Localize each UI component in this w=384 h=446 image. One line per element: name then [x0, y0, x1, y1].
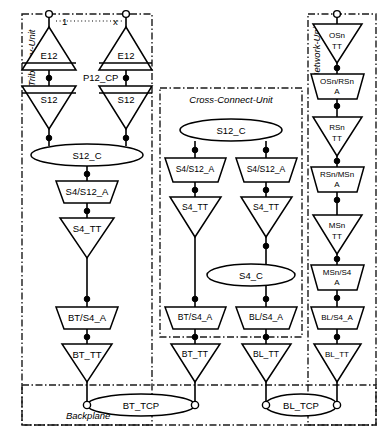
connection-point-label: BT_TCP [123, 400, 159, 411]
block-label: BT_TT [182, 349, 209, 359]
block-label-line2: TT [332, 232, 342, 241]
connection-point-s4c-ccu[interactable]: S4_C [207, 264, 295, 286]
access-point-network[interactable] [334, 11, 341, 18]
trib-main-chain: S4/S12_A S4_TT BT/S4_A BT_TT [56, 166, 118, 404]
termination-point-bl-left[interactable] [262, 401, 269, 408]
connection-point-bl-tcp[interactable]: BL_TCP [265, 394, 337, 416]
connection-point-p12cp-1[interactable] [46, 75, 52, 81]
block-bt-s4-a-trib[interactable]: BT/S4_A [56, 307, 118, 329]
connection-point-s4c-out[interactable] [263, 296, 269, 302]
block-s4-s12-a-trib[interactable]: S4/S12_A [56, 181, 118, 203]
connection-point-label: S12_C [216, 125, 245, 136]
block-rsn-tt[interactable]: RSn TT [313, 117, 362, 156]
block-s4-s12-a-ccu-right[interactable]: S4/S12_A [236, 158, 297, 182]
block-label: BL_TT [325, 350, 349, 359]
block-label: S4/S12_A [176, 164, 215, 174]
block-label: BL_TT [253, 349, 280, 359]
connection-point-bt-trib[interactable] [84, 334, 90, 340]
block-label: E12 [41, 50, 58, 61]
block-s4-s12-a-ccu-left[interactable]: S4/S12_A [165, 158, 226, 182]
block-label: BT_TT [72, 349, 101, 360]
block-bl-tt-nu[interactable]: BL_TT [314, 344, 361, 382]
block-label-line1: OSn [329, 31, 345, 40]
block-label-line2: A [334, 278, 340, 287]
block-bt-tt-ccu-left[interactable]: BT_TT [171, 344, 220, 382]
block-label: BL/S4_A [321, 313, 353, 322]
block-s4-tt-ccu-right[interactable]: S4_TT [241, 197, 292, 237]
connection-point-bt-tcp[interactable]: BT_TCP [87, 394, 195, 416]
connection-point-s12c-out-right[interactable] [263, 147, 269, 153]
block-e12-trib-x[interactable]: E12 [99, 27, 152, 70]
connection-point-rsn[interactable] [334, 103, 340, 109]
block-label-line2: TT [332, 42, 342, 51]
block-bl-s4-a-nu[interactable]: BL/S4_A [311, 307, 364, 329]
top-index-row: 1 x [56, 16, 124, 27]
connection-point-label: BL_TCP [283, 400, 319, 411]
connection-point-label: S4_C [239, 270, 263, 281]
block-label-line2: A [334, 180, 340, 189]
block-label-line1: MSn [329, 221, 345, 230]
block-label: BT/S4_A [68, 312, 107, 323]
block-s4-tt-ccu-left[interactable]: S4_TT [170, 197, 221, 237]
block-s4-tt-trib[interactable]: S4_TT [60, 218, 114, 258]
block-rsn-msn-a[interactable]: RSn/MSn A [311, 167, 364, 192]
block-label: S4_TT [73, 223, 102, 234]
termination-point-bt-right[interactable] [191, 401, 198, 408]
termination-point-bl-right[interactable] [333, 401, 340, 408]
connection-point-s4-ccu-left[interactable] [192, 187, 198, 193]
block-s12-trib-x[interactable]: S12 [99, 86, 152, 129]
connection-point-osn[interactable] [334, 65, 340, 71]
block-label: E12 [118, 50, 135, 61]
connection-point-s4c-trib[interactable] [84, 296, 90, 302]
block-label: S4/S12_A [66, 186, 109, 197]
connection-point-s12c-ccu[interactable]: S12_C [180, 119, 282, 141]
block-msn-s4-a[interactable]: MSn/S4 A [311, 265, 364, 290]
block-osn-rsn-a[interactable]: OSn/RSn A [311, 74, 364, 99]
connection-point-label: S12_C [72, 150, 101, 161]
access-point-trib-x[interactable] [123, 11, 130, 18]
termination-point-bt-left[interactable] [83, 401, 90, 408]
block-s12-trib-1[interactable]: S12 [22, 86, 76, 129]
block-label: S12 [41, 94, 58, 105]
connection-point-rsn-out[interactable] [334, 158, 340, 164]
unit-title-cross-connect: Cross-Connect-Unit [189, 94, 273, 105]
block-label-line2: A [334, 87, 340, 96]
block-label: S4/S12_A [247, 164, 286, 174]
index-label-last: x [113, 16, 118, 27]
connection-point-s4c-ccu-left[interactable] [192, 296, 198, 302]
block-label-line2: TT [332, 134, 342, 143]
network-architecture-diagram: Tributary-Unit Cross-Connect-Unit Networ… [0, 0, 384, 446]
connection-point-s4-ccu-right[interactable] [263, 187, 269, 193]
connection-point-s4-nu[interactable] [334, 295, 340, 301]
connection-point-s12c-tributary[interactable]: S12_C [31, 144, 143, 166]
block-label: BT/S4_A [178, 312, 213, 322]
block-label-line1: RSn [329, 123, 345, 132]
connection-point-s12c-out[interactable] [84, 171, 90, 177]
connection-point-bl-ccu-right[interactable] [263, 334, 269, 340]
block-label: S4_TT [182, 202, 209, 212]
svg-text:Cross-Connect-Unit: Cross-Connect-Unit [189, 94, 273, 105]
block-bt-tt-trib[interactable]: BT_TT [62, 344, 112, 382]
connection-point-p12cp-x[interactable] [123, 75, 129, 81]
block-bt-s4-a-ccu-left[interactable]: BT/S4_A [165, 307, 226, 329]
connection-point-s4tt-out-right[interactable] [263, 243, 269, 249]
connection-point-bt-ccu-left[interactable] [192, 334, 198, 340]
connection-point-s4-trib[interactable] [84, 208, 90, 214]
connection-point-s12-x[interactable] [123, 135, 129, 141]
block-label-line1: MSn/S4 [323, 268, 352, 277]
network-unit-chain: OSn TT OSn/RSn A RSn TT RSn/MSn A [311, 17, 364, 404]
block-msn-tt[interactable]: MSn TT [313, 215, 362, 254]
connection-point-bl-nu[interactable] [334, 334, 340, 340]
ccu-column-right: S4/S12_A S4_TT S4_C BL/S4_A BL_TT [207, 141, 297, 404]
block-bl-tt-ccu-right[interactable]: BL_TT [242, 344, 291, 382]
block-bl-s4-a-ccu-right[interactable]: BL/S4_A [236, 307, 297, 329]
label-p12-cp: P12_CP [83, 72, 118, 83]
connection-point-msn[interactable] [334, 197, 340, 203]
connection-point-s12-1[interactable] [46, 135, 52, 141]
connection-point-msn-out[interactable] [334, 256, 340, 262]
block-label-line1: OSn/RSn [320, 77, 354, 86]
block-label: S12 [118, 94, 135, 105]
access-point-trib-1[interactable] [46, 11, 53, 18]
block-label-line1: RSn/MSn [320, 170, 354, 179]
connection-point-s12c-out-left[interactable] [192, 147, 198, 153]
